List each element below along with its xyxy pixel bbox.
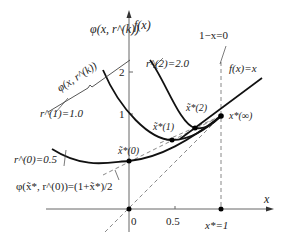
origin-point xyxy=(127,207,132,212)
x-tick-label-05: 0.5 xyxy=(166,215,180,227)
label-r2: r^(2)=2.0 xyxy=(146,57,189,70)
dashed-diagonal xyxy=(105,116,221,232)
label-r1: r^(1)=1.0 xyxy=(40,107,83,120)
y-label-right: f(x) xyxy=(134,18,151,32)
point-xstar2 xyxy=(193,126,198,131)
leader-constraint xyxy=(220,46,226,64)
point-xstar0 xyxy=(127,159,132,164)
point-xstar1 xyxy=(170,138,175,143)
leader-phi xyxy=(115,170,119,180)
x-tick-label-0: 0 xyxy=(131,215,137,227)
label-xstar2: x̃*(2) xyxy=(185,102,208,114)
label-r0: r^(0)=0.5 xyxy=(14,153,57,166)
y-tick-label-2: 2 xyxy=(119,66,125,78)
label-xstarinf: x*(∞) xyxy=(228,110,253,122)
y-tick-label-1: 1 xyxy=(119,108,125,120)
y-label-left: φ(x, r^(k)) xyxy=(90,22,139,36)
curve-r0 xyxy=(52,116,221,163)
point-xstarinf xyxy=(218,113,224,119)
label-phi-eq: φ(x̃*, r^(0))=(1+x̃*)/2 xyxy=(16,180,113,193)
x-label: x xyxy=(263,192,270,206)
label-xstar1: x̃*(1) xyxy=(152,121,175,133)
y-axis-arrow-icon xyxy=(127,10,132,18)
label-objective: f(x)=x xyxy=(229,62,257,75)
curve-r2 xyxy=(150,60,221,128)
penalty-function-diagram: φ(x, r^(k)) f(x) x 2 1 0 0.5 x*=1 φ(x, r… xyxy=(0,0,284,251)
brace-label: φ(x, r^(k)) xyxy=(55,59,100,95)
x-axis-arrow-icon xyxy=(266,207,274,212)
leader-r0 xyxy=(64,150,66,166)
point-x1 xyxy=(219,207,224,212)
label-constraint: 1−x=0 xyxy=(199,29,228,41)
label-xstar0: x̃*(0) xyxy=(117,145,140,157)
x-tick-label-1: x*=1 xyxy=(204,219,228,231)
